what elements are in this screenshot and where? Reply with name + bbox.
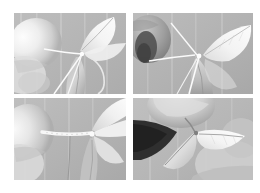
photo-panel-bottom-right: Fingers holding a small two-leaf cutting… — [133, 98, 253, 180]
photo-panel-top-left: Hand holding plant stem with leaves and … — [14, 13, 126, 94]
deep-shadow — [137, 43, 151, 63]
knuckle-shadow — [18, 72, 50, 94]
graft-union-node — [89, 131, 94, 136]
panel-top-right-image — [133, 13, 253, 94]
graft-node — [197, 54, 202, 59]
photo-panel-top-right: Close view of graft junction with crosse… — [133, 13, 253, 94]
panel-bottom-right-image — [133, 98, 253, 180]
cutting-node — [194, 131, 198, 135]
figure-title: Plant grafting and propagation photo seq… — [0, 0, 1, 1]
panel-bottom-left-image — [14, 98, 126, 180]
panel-top-left-image — [14, 13, 126, 94]
graft-union-node — [80, 52, 84, 56]
photo-panel-bottom-left: Wrapped and bound graft union held betwe… — [14, 98, 126, 180]
photo-figure-grid: Hand holding plant stem with leaves and … — [0, 0, 260, 193]
